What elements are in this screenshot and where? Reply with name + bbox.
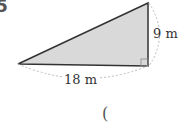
triangle [18, 3, 148, 66]
right-triangle-figure [0, 0, 186, 127]
answer-blank[interactable]: ( [102, 104, 108, 123]
base-label: 18 m [63, 72, 98, 87]
height-label: 9 m [153, 26, 178, 41]
